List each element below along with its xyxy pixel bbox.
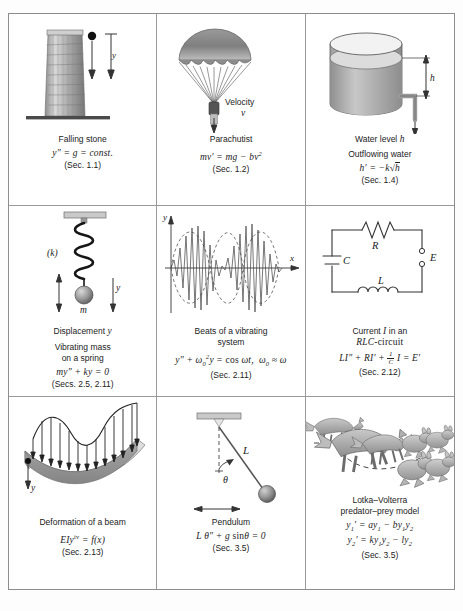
beam-illustration: y — [9, 399, 157, 517]
cell-outflowing-water: h Water level h Outflowing water h′ = −k… — [306, 14, 454, 206]
title-beats-line2: system — [157, 337, 304, 348]
subtitle-outflowing-water: Outflowing water — [306, 149, 454, 160]
label-theta: θ — [223, 474, 228, 485]
equation-beam-deformation: EIyiv = f(x) — [9, 531, 156, 546]
section-parachutist: (Sec. 1.2) — [157, 164, 304, 175]
cell-vibrating-mass: (k) m y Displacement y Vibrating mass on… — [9, 206, 157, 398]
cell-beam-deformation: y Deformation of a beam EIyiv = f(x) (Se… — [9, 397, 157, 589]
equation-beats: y″ + ω02y = cos ωt, ω0 ≈ ω — [157, 351, 304, 369]
equation-lotka-volterra-1: y1′ = ay1 − by1y2 — [306, 520, 454, 534]
subtitle-lotka-volterra: predator–prey model — [306, 506, 454, 517]
label-y-axis: y — [162, 212, 167, 222]
spring-mass-illustration: (k) m y — [9, 208, 157, 316]
section-falling-stone: (Sec. 1.1) — [9, 160, 156, 171]
caption-lotka-volterra: Lotka–Volterra predator–prey model y1′ =… — [306, 495, 454, 561]
art-beam-deformation: y — [9, 399, 156, 517]
title-beats-line1: Beats of a vibrating — [157, 326, 304, 337]
equation-rlc-circuit: LI″ + RI′ + 1C I = E′ — [306, 351, 454, 367]
section-lotka-volterra: (Sec. 3.5) — [306, 550, 454, 561]
section-outflowing-water: (Sec. 1.4) — [306, 175, 454, 186]
title-falling-stone: Falling stone — [9, 134, 156, 145]
section-vibrating-mass: (Secs. 2.5, 2.11) — [9, 379, 156, 390]
label-y: y — [111, 50, 116, 60]
label-R: R — [371, 240, 379, 251]
equation-outflowing-water: h′ = −k√h — [306, 163, 454, 174]
label-L: L — [242, 444, 249, 456]
rlc-circuit-diagram: R C L E — [306, 208, 454, 320]
section-beam-deformation: (Sec. 2.13) — [9, 547, 156, 558]
title-parachutist: Parachutist — [157, 134, 304, 145]
caption-outflowing-water: Water level h Outflowing water h′ = −k√h… — [306, 134, 454, 186]
subtitle-vibrating-mass-line1: Vibrating mass — [9, 342, 156, 353]
caption-beats: Beats of a vibrating system y″ + ω02y = … — [157, 326, 304, 381]
caption-pendulum: Pendulum L θ″ + g sinθ = 0 (Sec. 3.5) — [157, 517, 304, 554]
section-pendulum: (Sec. 3.5) — [157, 543, 304, 554]
section-beats: (Sec. 2.11) — [157, 370, 304, 381]
figure-frame: y Falling stone y″ = g = const. (Sec. 1.… — [8, 13, 455, 590]
label-C: C — [343, 255, 351, 266]
parachutist-illustration: Velocity v — [157, 16, 305, 134]
section-rlc-circuit: (Sec. 2.12) — [306, 367, 454, 378]
cell-pendulum: θ L Pendulum L θ″ + g sinθ = 0 (Sec. 3.5… — [157, 397, 305, 589]
title-pendulum: Pendulum — [157, 517, 304, 528]
label-v: v — [241, 108, 246, 118]
art-vibrating-mass: (k) m y — [9, 208, 156, 326]
title-vibrating-mass: Displacement y — [9, 326, 156, 337]
title-rlc-circuit: Current I in an — [306, 326, 454, 337]
art-falling-stone: y — [9, 16, 156, 134]
label-y: y — [115, 283, 121, 293]
equation-lotka-volterra-2: y2′ = ky1y2 − ly2 — [306, 535, 454, 549]
subtitle-rlc-circuit: RLC-circuit — [306, 337, 454, 348]
label-L: L — [377, 275, 384, 286]
equation-vibrating-mass: my″ + ky = 0 — [9, 367, 156, 378]
equation-parachutist: mv′ = mg − bv2 — [157, 148, 304, 163]
caption-parachutist: Parachutist mv′ = mg − bv2 (Sec. 1.2) — [157, 134, 304, 175]
title-beam-deformation: Deformation of a beam — [9, 517, 156, 528]
subtitle-vibrating-mass-line2: on a spring — [9, 353, 156, 364]
art-beats: y x — [157, 208, 304, 326]
cell-parachutist: Velocity v Parachutist mv′ = mg − bv2 (S… — [157, 14, 305, 206]
art-pendulum: θ L — [157, 399, 304, 517]
art-parachutist: Velocity v — [157, 16, 304, 134]
cell-falling-stone: y Falling stone y″ = g = const. (Sec. 1.… — [9, 14, 157, 206]
label-h: h — [430, 73, 435, 83]
figure-page: y Falling stone y″ = g = const. (Sec. 1.… — [0, 0, 463, 611]
label-k: (k) — [47, 248, 58, 259]
art-rlc-circuit: R C L E — [306, 208, 454, 326]
beats-plot: y x — [157, 208, 305, 320]
label-m: m — [80, 305, 87, 315]
caption-vibrating-mass: Displacement y Vibrating mass on a sprin… — [9, 326, 156, 390]
caption-falling-stone: Falling stone y″ = g = const. (Sec. 1.1) — [9, 134, 156, 171]
label-y: y — [30, 483, 36, 493]
cell-lotka-volterra: Lotka–Volterra predator–prey model y1′ =… — [306, 397, 454, 589]
art-outflowing-water: h — [306, 16, 454, 134]
equation-pendulum: L θ″ + g sinθ = 0 — [157, 531, 304, 542]
cell-beats: y x Beats of a vibrating system y″ + ω02… — [157, 206, 305, 398]
art-lotka-volterra — [306, 399, 454, 495]
caption-beam-deformation: Deformation of a beam EIyiv = f(x) (Sec.… — [9, 517, 156, 558]
caption-rlc-circuit: Current I in an RLC-circuit LI″ + RI′ + … — [306, 326, 454, 379]
label-x-axis: x — [289, 253, 294, 263]
label-E: E — [429, 252, 437, 263]
cell-rlc-circuit: R C L E Current I in an RLC-circuit LI″ … — [306, 206, 454, 398]
label-velocity: Velocity — [225, 97, 255, 107]
pendulum-illustration: θ L — [157, 399, 305, 517]
title-lotka-volterra: Lotka–Volterra — [306, 495, 454, 506]
predator-prey-illustration — [306, 399, 454, 495]
water-tank-illustration: h — [306, 16, 454, 134]
equation-falling-stone: y″ = g = const. — [9, 148, 156, 159]
figure-grid: y Falling stone y″ = g = const. (Sec. 1.… — [9, 14, 454, 589]
title-outflowing-water: Water level h — [306, 134, 454, 145]
leaning-tower-illustration: y — [9, 16, 157, 134]
